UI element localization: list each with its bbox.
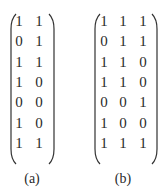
matrix-b-cell: 1 — [117, 14, 129, 29]
matrix-b-cell: 1 — [98, 136, 110, 151]
matrix-b-cell: 0 — [137, 75, 149, 90]
matrix-b-cell: 0 — [137, 55, 149, 70]
matrix-a-caption: (a) — [17, 172, 47, 186]
matrix-a-cell: 0 — [13, 95, 25, 110]
right-parenthesis — [151, 13, 158, 165]
matrix-a-cell: 1 — [13, 116, 25, 131]
matrix-a-cell: 1 — [13, 55, 25, 70]
matrix-b-cell: 1 — [117, 75, 129, 90]
matrix-a-cell: 1 — [33, 34, 45, 49]
matrix-b-cell: 1 — [117, 136, 129, 151]
matrix-a-cell: 1 — [33, 136, 45, 151]
matrix-b-cell: 1 — [137, 34, 149, 49]
matrix-b-cell: 0 — [98, 95, 110, 110]
matrix-b-caption: (b) — [108, 172, 138, 186]
matrix-a-cell: 1 — [13, 14, 25, 29]
matrix-b-cell: 1 — [98, 75, 110, 90]
matrix-b-cell: 1 — [98, 14, 110, 29]
matrix-a-cell: 0 — [33, 75, 45, 90]
right-parenthesis — [48, 13, 55, 165]
matrix-b-cell: 0 — [98, 34, 110, 49]
matrix-b-cell: 1 — [137, 95, 149, 110]
matrix-b-cell: 1 — [98, 116, 110, 131]
matrix-b-cell: 0 — [117, 95, 129, 110]
matrix-b-cell: 0 — [117, 116, 129, 131]
matrix-b-cell: 0 — [137, 116, 149, 131]
matrix-a-cell: 1 — [33, 14, 45, 29]
matrix-a-cell: 1 — [13, 75, 25, 90]
matrix-a-cell: 0 — [33, 95, 45, 110]
matrix-b-cell: 1 — [137, 14, 149, 29]
matrix-b-cell: 1 — [98, 55, 110, 70]
matrix-b-cell: 1 — [137, 136, 149, 151]
matrix-a-cell: 0 — [13, 34, 25, 49]
matrix-a-cell: 1 — [13, 136, 25, 151]
matrix-b-cell: 1 — [117, 55, 129, 70]
matrix-a-cell: 0 — [33, 116, 45, 131]
matrix-b-cell: 1 — [117, 34, 129, 49]
matrix-a-cell: 1 — [33, 55, 45, 70]
